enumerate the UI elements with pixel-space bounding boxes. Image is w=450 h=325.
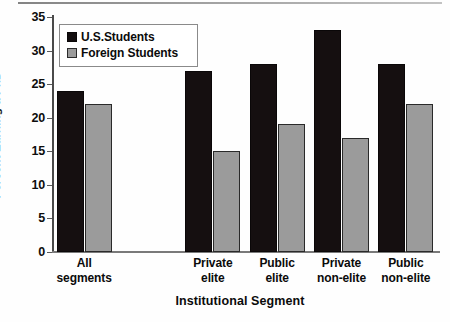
bar-us-students <box>250 64 277 252</box>
black-square-icon <box>67 32 77 42</box>
bar-us-students <box>57 91 84 252</box>
legend-item-us-students: U.S.Students <box>67 29 187 45</box>
x-category-label: Allsegments <box>37 256 132 286</box>
scan-artifact-line <box>18 2 442 4</box>
bar-group-public-elite <box>250 17 305 252</box>
y-tick-label: 15 <box>31 144 45 158</box>
bar-foreign-students <box>213 151 240 252</box>
y-tick-label: 35 <box>31 10 45 24</box>
bar-foreign-students <box>278 124 305 252</box>
chart-legend: U.S.Students Foreign Students <box>59 24 198 67</box>
bar-us-students <box>185 71 212 252</box>
y-axis-title-wrapper: Percent Earning a PhD <box>8 17 22 252</box>
y-tick-label: 25 <box>31 77 45 91</box>
bar-us-students <box>378 64 405 252</box>
y-tick-label: 30 <box>31 44 45 58</box>
x-category-label: Publicnon-elite <box>358 256 450 286</box>
y-tick-mark <box>47 252 52 253</box>
y-tick-label: 20 <box>31 111 45 125</box>
bar-foreign-students <box>85 104 112 252</box>
bar-us-students <box>314 30 341 252</box>
x-axis-category-labels: AllsegmentsPrivateelitePublicelitePrivat… <box>52 256 440 296</box>
gray-square-icon <box>67 48 77 58</box>
bar-group-private-non-elite <box>314 17 369 252</box>
y-axis-title: Percent Earning a PhD <box>0 71 2 198</box>
bar-group-public-non-elite <box>378 17 433 252</box>
legend-label-us-students: U.S.Students <box>81 30 154 44</box>
bar-foreign-students <box>342 138 369 252</box>
bar-chart-figure: Percent Earning a PhD 05101520253035 U.S… <box>0 0 450 325</box>
legend-label-foreign-students: Foreign Students <box>81 46 178 60</box>
bar-foreign-students <box>406 104 433 252</box>
y-tick-label: 10 <box>31 178 45 192</box>
legend-item-foreign-students: Foreign Students <box>67 45 187 61</box>
x-axis-title: Institutional Segment <box>0 294 450 308</box>
y-tick-label: 5 <box>38 211 45 225</box>
